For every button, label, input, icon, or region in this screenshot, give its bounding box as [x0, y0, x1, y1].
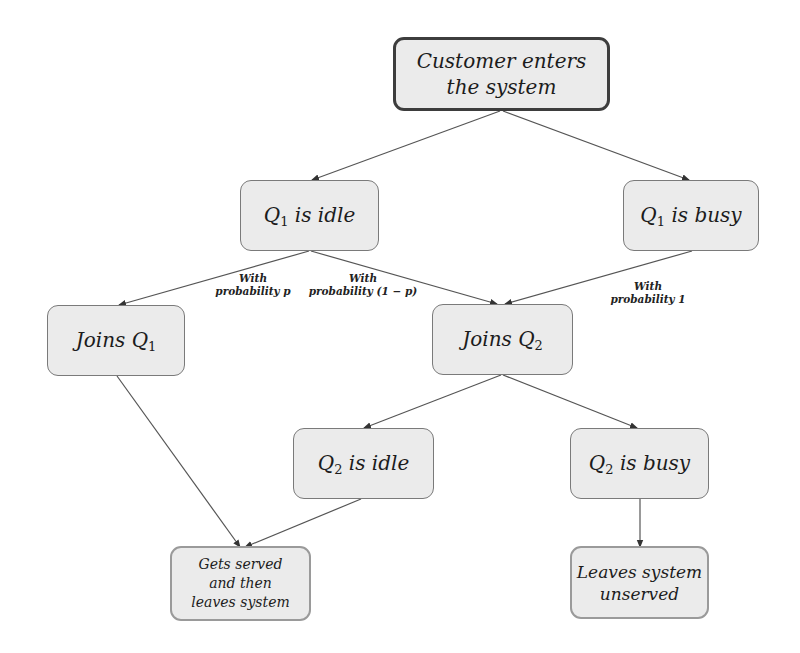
node-subscript: 2 [535, 337, 543, 352]
node-q2-idle: Q2 is idle [293, 428, 434, 499]
node-text: Joins Q [76, 328, 148, 352]
edge-label-line: With [309, 272, 418, 285]
edge-join-q2-to-q2-busy [503, 375, 637, 428]
node-text-line: Customer enters [417, 48, 587, 74]
node-gets-served: Gets served and then leaves system [170, 546, 311, 621]
node-text: is busy [614, 451, 691, 475]
node-subscript: 1 [657, 213, 665, 228]
edge-label-probability-1: With probability 1 [610, 280, 685, 306]
node-q1-idle: Q1 is idle [240, 180, 379, 251]
edge-label-probability-p: With probability p [215, 272, 290, 298]
node-joins-q2: Joins Q2 [432, 304, 573, 375]
edge-join-q1-to-served [117, 376, 240, 547]
node-joins-q1: Joins Q1 [47, 305, 185, 376]
edge-label-line: probability 1 [610, 293, 685, 306]
node-text: Q [264, 203, 280, 227]
node-text: is busy [665, 203, 742, 227]
queue-flowchart: Customer enters the system Q1 is idle Q1… [0, 0, 800, 653]
node-q1-busy: Q1 is busy [623, 180, 759, 251]
node-text: Q [318, 451, 334, 475]
node-text-line: leaves system [191, 593, 289, 612]
node-text-line: the system [417, 74, 587, 100]
node-customer-enters: Customer enters the system [393, 37, 610, 111]
node-text: is idle [288, 203, 355, 227]
node-text-line: Gets served [191, 555, 289, 574]
edge-label-line: With [610, 280, 685, 293]
node-text-line: Leaves system [577, 561, 702, 583]
node-text: Joins Q [462, 327, 534, 351]
edge-q2-idle-to-served [245, 499, 361, 547]
node-text-line: unserved [577, 583, 702, 605]
edge-label-probability-1-minus-p: With probability (1 − p) [309, 272, 418, 298]
edge-enter-to-q1-idle [312, 111, 500, 180]
node-q2-busy: Q2 is busy [570, 428, 709, 499]
node-text: Q [589, 451, 605, 475]
node-text: is idle [342, 451, 409, 475]
edge-join-q2-to-q2-idle [364, 375, 501, 428]
edge-label-line: probability (1 − p) [309, 285, 418, 298]
node-leaves-unserved: Leaves system unserved [570, 546, 709, 619]
node-subscript: 2 [605, 461, 613, 476]
edge-label-line: With [215, 272, 290, 285]
node-text: Q [640, 203, 656, 227]
node-text-line: and then [191, 574, 289, 593]
edge-enter-to-q1-busy [503, 111, 689, 180]
node-subscript: 1 [148, 338, 156, 353]
edge-label-line: probability p [215, 285, 290, 298]
